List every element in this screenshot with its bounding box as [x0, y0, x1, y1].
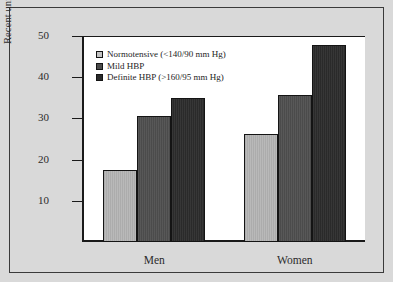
legend-label-normotensive: Normotensive (<140/90 mm Hg) [107, 49, 226, 61]
legend-label-mild-hbp: Mild HBP [107, 61, 144, 73]
y-tick-mark [72, 77, 82, 78]
y-tick-label: 20 [25, 153, 49, 165]
y-tick-label: 30 [25, 111, 49, 123]
bar [278, 95, 312, 242]
y-axis-label: Recent unrecognized myocardial infarctio… [2, 0, 13, 44]
x-category-label: Women [225, 254, 366, 266]
y-tick-mark [72, 36, 82, 37]
bar [244, 134, 278, 242]
legend-label-definite-hbp: Definite HBP (>160/95 mm Hg) [107, 72, 224, 84]
y-tick-mark [72, 118, 82, 119]
legend-item: Normotensive (<140/90 mm Hg) [96, 49, 226, 61]
y-tick-mark [72, 201, 82, 202]
legend-item: Mild HBP [96, 61, 226, 73]
y-tick-mark [72, 160, 82, 161]
figure-background: Recent unrecognized myocardial infarctio… [0, 0, 393, 282]
legend-swatch-mild-hbp [96, 63, 103, 70]
y-tick-label: 10 [25, 194, 49, 206]
legend-swatch-definite-hbp [96, 74, 103, 81]
legend-swatch-normotensive [96, 51, 103, 58]
bar [312, 45, 346, 242]
figure-frame: Recent unrecognized myocardial infarctio… [9, 7, 384, 273]
x-category-label: Men [84, 254, 225, 266]
y-tick-label: 50 [25, 29, 49, 41]
legend-item: Definite HBP (>160/95 mm Hg) [96, 72, 226, 84]
chart-legend: Normotensive (<140/90 mm Hg) Mild HBP De… [96, 49, 226, 84]
y-tick-label: 40 [25, 70, 49, 82]
